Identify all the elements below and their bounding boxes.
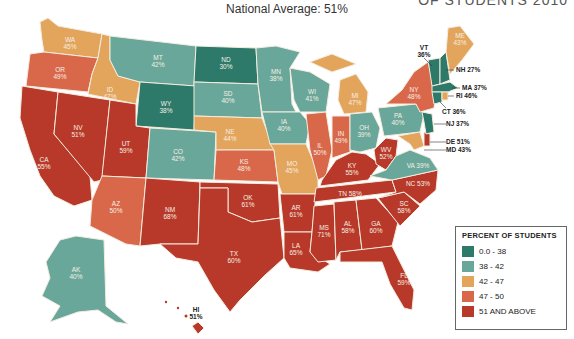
label-fl-value: 59% <box>397 279 410 286</box>
label-va: VA 39% <box>407 162 430 169</box>
label-ga-value: 60% <box>369 227 382 234</box>
label-co-abbr: CO <box>173 148 183 155</box>
svg-text:HI51%: HI51% <box>189 306 202 320</box>
label-az-abbr: AZ <box>112 200 120 207</box>
label-fl-abbr: FL <box>400 272 408 279</box>
legend-swatch <box>462 276 474 287</box>
label-mi-value: 47% <box>348 99 361 106</box>
label-ct: CT 36% <box>442 108 466 115</box>
label-la-abbr: LA <box>292 242 301 249</box>
label-ne-abbr: NE <box>225 128 235 135</box>
label-nj: NJ 37% <box>446 120 469 127</box>
label-ky-value: 55% <box>345 169 358 176</box>
label-pa-value: 40% <box>391 119 404 126</box>
svg-text:CO42%: CO42% <box>171 148 184 162</box>
label-mo-value: 45% <box>285 167 298 174</box>
label-or-value: 49% <box>53 73 66 80</box>
svg-text:FL59%: FL59% <box>397 272 410 286</box>
label-il-abbr: IL <box>317 142 323 149</box>
label-al-abbr: AL <box>344 220 352 227</box>
label-vt-abbr: VT <box>420 44 428 51</box>
svg-text:ME43%: ME43% <box>453 32 466 46</box>
label-ok-value: 61% <box>241 201 254 208</box>
label-ca-value: 55% <box>37 163 50 170</box>
label-il-value: 50% <box>313 149 326 156</box>
legend-item-bin3: 42 - 47 <box>462 274 560 289</box>
label-pa-abbr: PA <box>394 112 403 119</box>
label-sc-value: 58% <box>397 207 410 214</box>
label-tn: TN 58% <box>338 190 362 197</box>
state-ri[interactable] <box>442 92 448 100</box>
svg-text:MN38%: MN38% <box>269 68 282 82</box>
label-ri: RI 46% <box>456 92 478 99</box>
label-ut-value: 59% <box>119 147 132 154</box>
label-in-abbr: IN <box>338 130 345 137</box>
label-mt-value: 42% <box>151 61 164 68</box>
label-ia-abbr: IA <box>281 118 288 125</box>
label-id-value: 47% <box>103 93 116 100</box>
label-ga-abbr: GA <box>371 220 381 227</box>
label-mn-abbr: MN <box>271 68 281 75</box>
legend-item-bin4: 47 - 50 <box>462 289 560 304</box>
label-ca-abbr: CA <box>39 156 49 163</box>
label-ak-value: 40% <box>69 273 82 280</box>
label-ms-value: 71% <box>317 231 330 238</box>
hawaii-island-small <box>185 315 188 318</box>
state-nj[interactable] <box>422 112 434 134</box>
label-ne-value: 44% <box>223 135 236 142</box>
legend-swatch <box>462 246 474 257</box>
label-wa-abbr: WA <box>65 36 76 43</box>
label-ia-value: 40% <box>277 125 290 132</box>
label-or-abbr: OR <box>55 66 65 73</box>
legend-item-bin2: 38 - 42 <box>462 259 560 274</box>
label-ar-abbr: AR <box>291 204 300 211</box>
svg-text:WA45%: WA45% <box>63 36 76 50</box>
svg-text:VT36%: VT36% <box>417 44 430 58</box>
label-md: MD 43% <box>446 146 471 153</box>
label-co-value: 42% <box>171 155 184 162</box>
label-sc-abbr: SC <box>399 200 408 207</box>
legend-swatch <box>462 291 474 302</box>
label-tx-value: 60% <box>227 257 240 264</box>
label-vt-value: 36% <box>417 51 430 58</box>
label-oh-abbr: OH <box>359 124 369 131</box>
state-hi[interactable] <box>192 322 204 334</box>
map-legend: PERCENT OF STUDENTS 0.0 - 38 38 - 42 42 … <box>455 226 567 330</box>
label-ny-value: 48% <box>407 93 420 100</box>
label-wa-value: 45% <box>63 43 76 50</box>
label-ut-abbr: UT <box>122 140 131 147</box>
svg-text:MS71%: MS71% <box>317 224 330 238</box>
label-nm-value: 68% <box>163 213 176 220</box>
label-nd-value: 30% <box>219 63 232 70</box>
label-nm-abbr: NM <box>165 206 175 213</box>
label-sd-abbr: SD <box>223 90 232 97</box>
svg-text:OR49%: OR49% <box>53 66 66 80</box>
label-me-abbr: ME <box>455 32 465 39</box>
label-ar-value: 61% <box>289 211 302 218</box>
label-de: DE 51% <box>446 138 470 145</box>
label-al-value: 58% <box>341 227 354 234</box>
label-wi-abbr: WI <box>308 88 316 95</box>
state-md[interactable] <box>398 132 424 150</box>
label-ak-abbr: AK <box>72 266 81 273</box>
label-mt-abbr: MT <box>153 54 162 61</box>
label-id-abbr: ID <box>107 86 114 93</box>
label-wy-abbr: WY <box>161 100 172 107</box>
label-ny-abbr: NY <box>409 86 419 93</box>
label-ks-abbr: KS <box>240 158 249 165</box>
label-mo-abbr: MO <box>287 160 297 167</box>
legend-label: 38 - 42 <box>479 262 504 271</box>
svg-text:OH39%: OH39% <box>357 124 370 138</box>
svg-text:MO45%: MO45% <box>285 160 298 174</box>
label-la-value: 65% <box>289 249 302 256</box>
label-ks-value: 48% <box>237 165 250 172</box>
legend-swatch <box>462 306 474 317</box>
legend-label: 42 - 47 <box>479 277 504 286</box>
label-wv-abbr: WV <box>381 146 392 153</box>
label-nv-abbr: NV <box>73 124 83 131</box>
legend-label: 51 AND ABOVE <box>479 307 536 316</box>
label-ms-abbr: MS <box>319 224 329 231</box>
svg-text:NM68%: NM68% <box>163 206 176 220</box>
state-ak[interactable] <box>42 236 128 324</box>
state-mi-upper[interactable] <box>310 54 356 72</box>
